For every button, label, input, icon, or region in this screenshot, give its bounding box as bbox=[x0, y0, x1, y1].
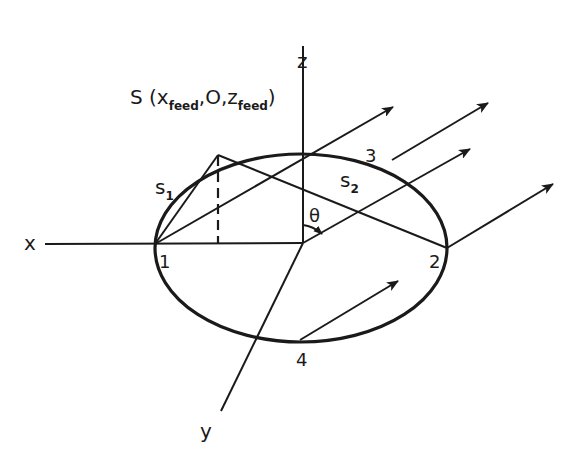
y-axis-label: y bbox=[200, 419, 212, 443]
x-axis-label: x bbox=[24, 231, 36, 255]
ray-from-point-4 bbox=[300, 281, 398, 340]
theta-label: θ bbox=[309, 205, 320, 226]
point-3-label: 3 bbox=[365, 145, 376, 166]
theta-arc-arrow bbox=[303, 225, 322, 234]
y-axis bbox=[221, 243, 303, 411]
ray-from-point-1 bbox=[155, 107, 393, 244]
parallel-rays bbox=[155, 103, 553, 340]
ray-from-point-2 bbox=[447, 184, 553, 248]
feed-position-label: S (xfeed,O,zfeed) bbox=[130, 85, 276, 113]
s1-label: s1 bbox=[155, 175, 174, 203]
s2-label: s2 bbox=[340, 168, 359, 196]
point-1-label: 1 bbox=[159, 251, 170, 272]
ray-s2 bbox=[218, 155, 447, 248]
point-4-label: 4 bbox=[296, 349, 307, 370]
reflector-geometry-diagram: z x y θ 1 2 3 4 s1 s2 S (xfeed,O,zfeed) bbox=[0, 0, 575, 459]
x-axis bbox=[45, 243, 303, 244]
point-2-label: 2 bbox=[429, 251, 440, 272]
ray-from-point-3 bbox=[392, 103, 488, 160]
z-axis-label: z bbox=[297, 49, 308, 73]
